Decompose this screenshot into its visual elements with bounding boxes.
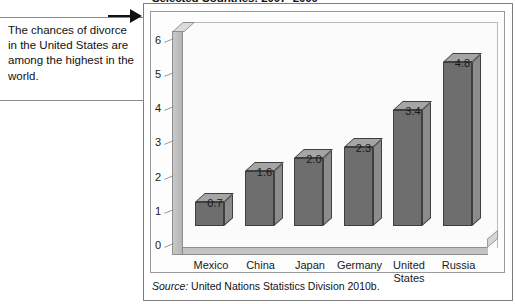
y-axis-label: 0: [143, 239, 161, 251]
y-axis-label: 5: [143, 68, 161, 80]
plot-floor: [183, 247, 488, 255]
bar: 1.6China: [245, 18, 274, 247]
bar-value-label: 0.7: [192, 197, 238, 209]
y-axis-label: 6: [143, 34, 161, 46]
bar: 3.4United States: [393, 18, 422, 247]
value-axis-wall: [172, 31, 183, 255]
bar: 0.7Mexico: [195, 18, 224, 247]
chart-title: Selected Countries: 2007–2009: [152, 0, 502, 4]
source-note: Source: United Nations Statistics Divisi…: [152, 280, 380, 292]
bar-front-face: [443, 62, 472, 226]
bar: 4.8Russia: [443, 18, 472, 247]
y-axis-label: 4: [143, 102, 161, 114]
bar-side-face: [472, 54, 481, 226]
bar-value-label: 3.4: [390, 105, 436, 117]
right-arrow-icon: [130, 9, 142, 23]
bar: 2.3Germany: [344, 18, 373, 247]
callout-text: The chances of divorce in the United Sta…: [8, 23, 138, 84]
bar-front-face: [245, 171, 274, 226]
y-axis-label: 2: [143, 171, 161, 183]
plot-area: 0123456 0.7Mexico1.6China2.0Japan2.3Germ…: [155, 18, 500, 268]
bar-value-label: 1.6: [242, 166, 288, 178]
x-axis-category-label: Russia: [430, 259, 488, 272]
bar-value-label: 2.3: [341, 142, 387, 154]
bar-front-face: [344, 147, 373, 226]
bar-side-face: [422, 102, 431, 226]
source-text: United Nations Statistics Division 2010b…: [188, 280, 379, 292]
bar: 2.0Japan: [294, 18, 323, 247]
y-axis-label: 1: [143, 205, 161, 217]
y-axis-label: 3: [143, 136, 161, 148]
bar-value-label: 2.0: [291, 153, 337, 165]
bar-value-label: 4.8: [440, 57, 486, 69]
bar-front-face: [393, 110, 422, 226]
source-label: Source:: [152, 280, 188, 292]
bar-front-face: [294, 158, 323, 226]
